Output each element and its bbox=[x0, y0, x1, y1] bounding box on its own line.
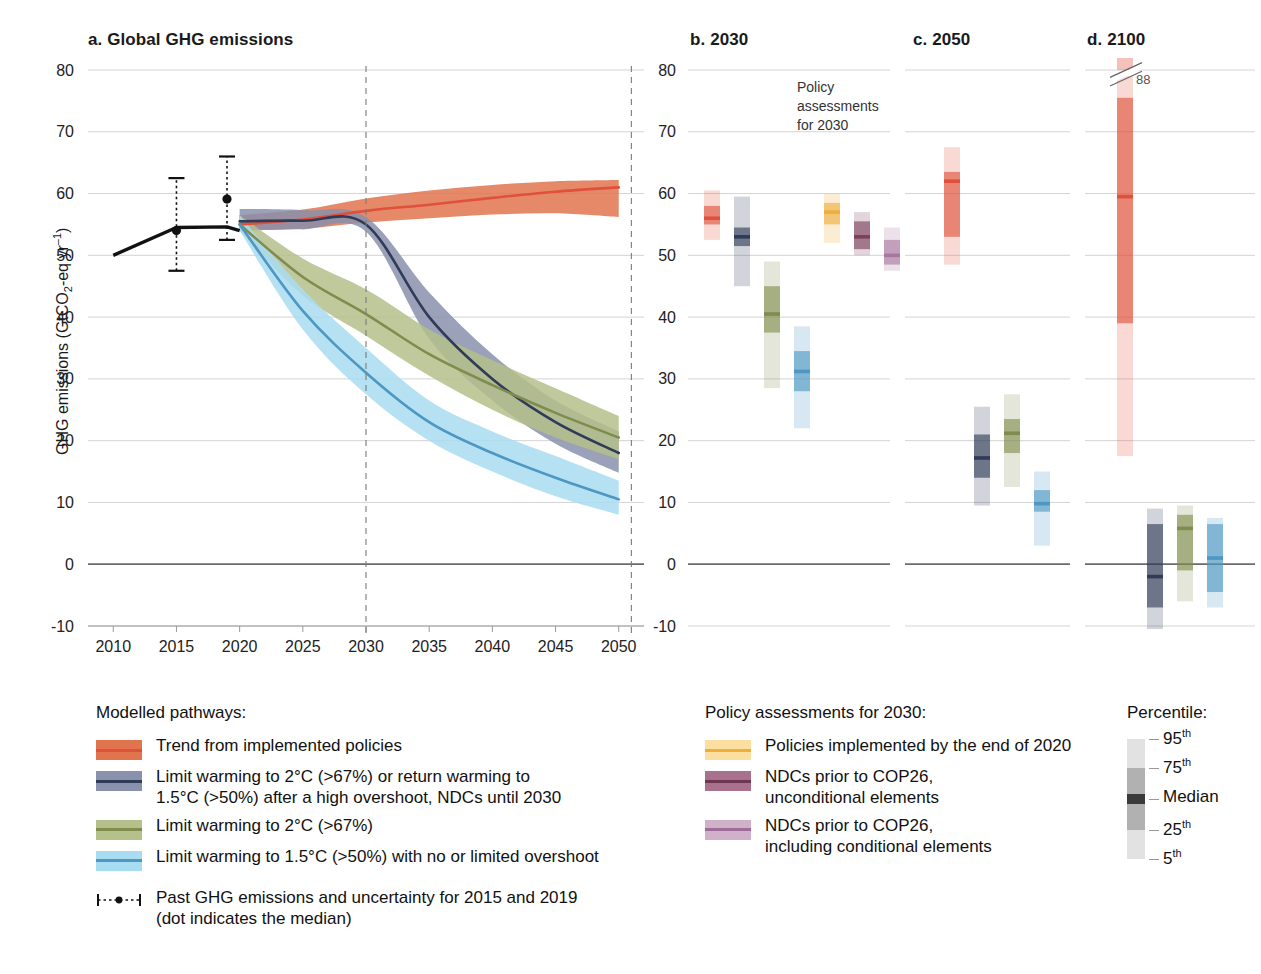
legend-swatch bbox=[705, 740, 751, 760]
y-tick-label: 50 bbox=[56, 247, 74, 264]
legend-item-label: Trend from implemented policies bbox=[156, 735, 402, 756]
bar-p25-p75 bbox=[704, 206, 720, 225]
policy-note-line-2: assessments bbox=[797, 97, 879, 116]
past-emissions-marker-icon bbox=[96, 890, 142, 910]
y-tick-label: 60 bbox=[658, 185, 676, 202]
y-tick-label: 30 bbox=[658, 370, 676, 387]
y-tick-label: 10 bbox=[658, 494, 676, 511]
bar-p25-p75 bbox=[1177, 515, 1193, 571]
legend-swatch-line bbox=[96, 749, 142, 752]
x-tick-label: 2030 bbox=[348, 638, 384, 655]
x-tick-label: 2045 bbox=[538, 638, 574, 655]
legend-policy-heading: Policy assessments for 2030: bbox=[705, 703, 1071, 723]
y-tick-label: 60 bbox=[56, 185, 74, 202]
bar-p25-p75 bbox=[884, 240, 900, 265]
y-tick-label: 30 bbox=[56, 370, 74, 387]
legend-label-line: Past GHG emissions and uncertainty for 2… bbox=[156, 887, 577, 908]
legend-item-pathway-0[interactable]: Trend from implemented policies bbox=[96, 735, 599, 760]
x-tick-label: 2035 bbox=[411, 638, 447, 655]
x-tick-label: 2040 bbox=[475, 638, 511, 655]
legend-swatch bbox=[96, 740, 142, 760]
y-tick-label: 0 bbox=[65, 556, 74, 573]
legend-item-policy-2[interactable]: NDCs prior to COP26,including conditiona… bbox=[705, 815, 1071, 858]
y-tick-label: 20 bbox=[56, 432, 74, 449]
bar-median bbox=[1207, 556, 1223, 560]
legend-swatch-line bbox=[96, 780, 142, 783]
legend-label-line: unconditional elements bbox=[765, 787, 939, 808]
bar-median bbox=[944, 179, 960, 183]
y-tick-label: 70 bbox=[56, 123, 74, 140]
figure-root: a. Global GHG emissions b. 2030 c. 2050 … bbox=[0, 0, 1261, 974]
legend-item-policy-0[interactable]: Policies implemented by the end of 2020 bbox=[705, 735, 1071, 760]
percentile-gradient-bar bbox=[1127, 739, 1145, 859]
bar-median bbox=[1004, 431, 1020, 435]
bar-p25-p75 bbox=[1004, 419, 1020, 453]
y-tick-label: 0 bbox=[667, 556, 676, 573]
panel-b-bars bbox=[704, 190, 900, 428]
legend-label-line: Limit warming to 1.5°C (>50%) with no or… bbox=[156, 846, 599, 867]
chart-canvas: 80706050403020100-10 2010201520202025203… bbox=[0, 0, 1261, 680]
policy-note-line-1: Policy bbox=[797, 78, 879, 97]
legend-swatch-line bbox=[96, 828, 142, 831]
percentile-label: 95th bbox=[1163, 727, 1191, 749]
y-tick-label: -10 bbox=[51, 618, 74, 635]
legend-past-label: Past GHG emissions and uncertainty for 2… bbox=[156, 887, 577, 930]
y-tick-label: 50 bbox=[658, 247, 676, 264]
legend-swatch-line bbox=[96, 859, 142, 862]
legend-item-label: Limit warming to 2°C (>67%) bbox=[156, 815, 373, 836]
bar-p25-p75 bbox=[974, 434, 990, 477]
y-tick-label: 20 bbox=[658, 432, 676, 449]
bar-p25-p75 bbox=[1147, 524, 1163, 607]
y-tick-label: 10 bbox=[56, 494, 74, 511]
x-tick-label: 2010 bbox=[95, 638, 131, 655]
y-tick-label: 80 bbox=[56, 62, 74, 79]
legend-item-policy-1[interactable]: NDCs prior to COP26,unconditional elemen… bbox=[705, 766, 1071, 809]
bar-p25-p75 bbox=[764, 286, 780, 332]
bar-median bbox=[794, 370, 810, 374]
legend-item-past-emissions[interactable]: Past GHG emissions and uncertainty for 2… bbox=[96, 887, 599, 930]
bar-p25-p75 bbox=[1117, 98, 1133, 323]
y-tick-label: 40 bbox=[658, 309, 676, 326]
bar-median bbox=[974, 456, 990, 460]
legend-item-pathway-3[interactable]: Limit warming to 1.5°C (>50%) with no or… bbox=[96, 846, 599, 871]
bar-p25-p75 bbox=[1034, 490, 1050, 512]
percentile-label: 75th bbox=[1163, 756, 1191, 778]
panel-d-break-label: 88 bbox=[1136, 72, 1150, 87]
panel-d-grid bbox=[1085, 70, 1255, 626]
bar-median bbox=[704, 216, 720, 220]
legend-label-line: Limit warming to 2°C (>67%) or return wa… bbox=[156, 766, 561, 787]
percentile-tick bbox=[1149, 799, 1159, 800]
legend-label-line: Trend from implemented policies bbox=[156, 735, 402, 756]
policy-assessments-note: Policy assessments for 2030 bbox=[797, 78, 879, 135]
legend-label-line: 1.5°C (>50%) after a high overshoot, NDC… bbox=[156, 787, 561, 808]
legend-pathways-heading: Modelled pathways: bbox=[96, 703, 599, 723]
legend-swatch bbox=[96, 771, 142, 791]
legend-swatch-line bbox=[705, 828, 751, 831]
uncertainty-median-dot-2019 bbox=[222, 195, 231, 204]
panel-d-bars bbox=[1117, 76, 1223, 629]
legend-label-line: Policies implemented by the end of 2020 bbox=[765, 735, 1071, 756]
legend-item-label: Limit warming to 2°C (>67%) or return wa… bbox=[156, 766, 561, 809]
bar-median bbox=[1177, 527, 1193, 531]
legend-swatch bbox=[96, 851, 142, 871]
bar-median bbox=[1147, 575, 1163, 579]
bar-median bbox=[1117, 195, 1133, 199]
legend-percentile: Percentile: 95th75thMedian25th5th bbox=[1127, 703, 1257, 868]
bar-median bbox=[884, 254, 900, 258]
bar-median bbox=[734, 235, 750, 239]
legend-swatch bbox=[705, 771, 751, 791]
legend-item-pathway-1[interactable]: Limit warming to 2°C (>67%) or return wa… bbox=[96, 766, 599, 809]
legend-swatch bbox=[705, 820, 751, 840]
legend-label-line: Limit warming to 2°C (>67%) bbox=[156, 815, 373, 836]
legend-label-line: NDCs prior to COP26, bbox=[765, 766, 939, 787]
y-tick-label: 70 bbox=[658, 123, 676, 140]
y-tick-label: 80 bbox=[658, 62, 676, 79]
y-tick-label: 40 bbox=[56, 309, 74, 326]
panel-c-bars bbox=[944, 147, 1050, 545]
percentile-tick bbox=[1149, 830, 1159, 831]
legend-label-line: (dot indicates the median) bbox=[156, 908, 577, 929]
y-tick-label: -10 bbox=[653, 618, 676, 635]
legend-item-pathway-2[interactable]: Limit warming to 2°C (>67%) bbox=[96, 815, 599, 840]
legend-modelled-pathways: Modelled pathways: Trend from implemente… bbox=[96, 703, 599, 929]
legend-swatch bbox=[96, 820, 142, 840]
